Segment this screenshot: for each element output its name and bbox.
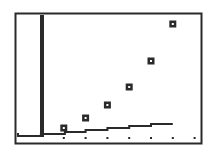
calculator-graph-screen [0,0,213,155]
square-marker-center [150,60,152,62]
square-marker-center [106,104,108,106]
x-tick-mark [85,137,87,139]
x-axis-ticks [63,137,196,139]
x-tick-mark [150,137,152,139]
x-tick-mark [194,137,196,139]
scatter-plot [0,0,213,155]
data-points [60,21,176,132]
square-marker-center [85,117,87,119]
x-tick-mark [106,137,108,139]
square-marker-center [172,23,174,25]
x-tick-mark [172,137,174,139]
square-marker-center [63,127,65,129]
y-axis [40,15,44,137]
square-marker-center [128,86,130,88]
x-tick-mark [128,137,130,139]
x-tick-mark [63,137,65,139]
